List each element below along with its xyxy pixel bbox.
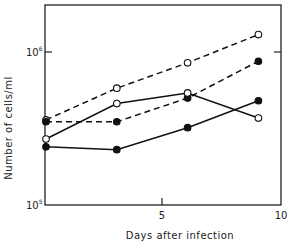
filled-circle-marker: [114, 146, 121, 153]
series-line: [46, 93, 258, 139]
filled-circle-marker: [255, 58, 262, 65]
open-circle-marker: [114, 100, 121, 107]
filled-circle-marker: [43, 118, 50, 125]
open-circle-marker: [184, 59, 191, 66]
open-circle-marker: [184, 90, 191, 97]
series-3: [43, 97, 262, 152]
y-axis-title: Number of cells/ml: [3, 76, 14, 179]
x-tick-label-5: 5: [159, 210, 165, 221]
open-circle-marker: [255, 31, 262, 38]
open-circle-marker: [114, 85, 121, 92]
filled-circle-marker: [43, 144, 50, 151]
series-layer: [43, 31, 262, 153]
series-1: [43, 58, 262, 125]
y-tick-label-1e6: 106: [26, 45, 43, 58]
x-tick-label-10: 10: [275, 210, 288, 221]
filled-circle-marker: [255, 97, 262, 104]
filled-circle-marker: [184, 124, 191, 131]
x-axis-title: Days after infection: [126, 230, 234, 241]
series-2: [43, 90, 262, 143]
filled-circle-marker: [114, 118, 121, 125]
series-line: [46, 101, 258, 150]
open-circle-marker: [255, 115, 262, 122]
open-circle-marker: [43, 136, 50, 143]
y-tick-label-1e5: 105: [26, 198, 43, 211]
chart: 106 105 5 10 Days after infection Number…: [0, 0, 294, 247]
